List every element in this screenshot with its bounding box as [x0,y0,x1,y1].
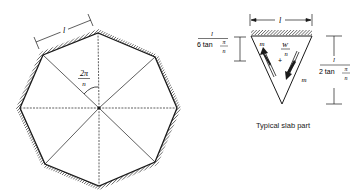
left-dimension-label: l 6 tan π n [197,30,228,54]
slab-diagram: 2π n l l [0,0,360,196]
typical-slab-part: l m m W n + [197,14,350,130]
centroid-marker: + [278,57,282,64]
octagon-slab: 2π n l [16,14,181,190]
svg-text:π: π [344,66,348,72]
svg-text:2 tan: 2 tan [319,68,335,75]
svg-text:π: π [222,39,226,45]
moment-label-left: m [259,40,264,48]
svg-text:n: n [223,48,226,54]
support-hatching [251,30,312,35]
angle-arc [84,87,99,94]
svg-text:n: n [82,80,86,88]
load-label: W n [281,41,290,57]
svg-text:2π: 2π [80,69,89,78]
svg-text:W: W [282,41,289,49]
center-point [97,106,100,109]
width-label: l [279,16,282,25]
moment-label-right: m [301,76,306,84]
left-dimension [234,37,246,61]
svg-text:n: n [284,50,287,57]
svg-text:n: n [345,75,348,81]
svg-text:6 tan: 6 tan [197,41,213,48]
right-dimension-label: l 2 tan π n [319,56,350,81]
svg-text:l: l [333,56,335,64]
svg-text:l: l [211,30,213,38]
slab-part-caption: Typical slab part [256,121,311,130]
angle-label: 2π n [78,69,90,88]
